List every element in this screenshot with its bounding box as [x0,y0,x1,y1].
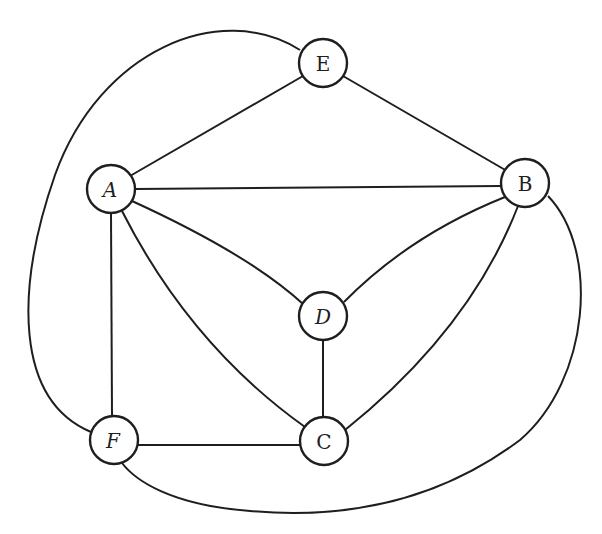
edge-A-C [122,211,305,427]
edge-E-A [130,76,303,176]
node-D-label: D [314,305,331,329]
node-F-label: F [105,429,121,453]
node-B: B [501,159,549,207]
edge-A-F [111,213,112,416]
node-E-label: E [316,52,331,76]
edge-A-B [135,186,501,189]
node-D: D [299,292,347,340]
graph-diagram: E A B D F C [0,0,602,534]
node-F: F [90,416,138,464]
edge-B-F [122,196,581,513]
node-C-label: C [316,430,331,454]
edge-E-B [343,76,507,171]
edge-B-D [344,197,505,302]
edge-B-C [345,206,518,430]
node-E: E [299,39,347,87]
node-A-label: A [101,178,117,202]
node-C: C [300,417,348,465]
node-A: A [87,165,135,213]
nodes: E A B D F C [87,39,549,465]
node-B-label: B [518,172,533,196]
edge-E-F [28,31,300,432]
edge-A-D [132,201,303,304]
